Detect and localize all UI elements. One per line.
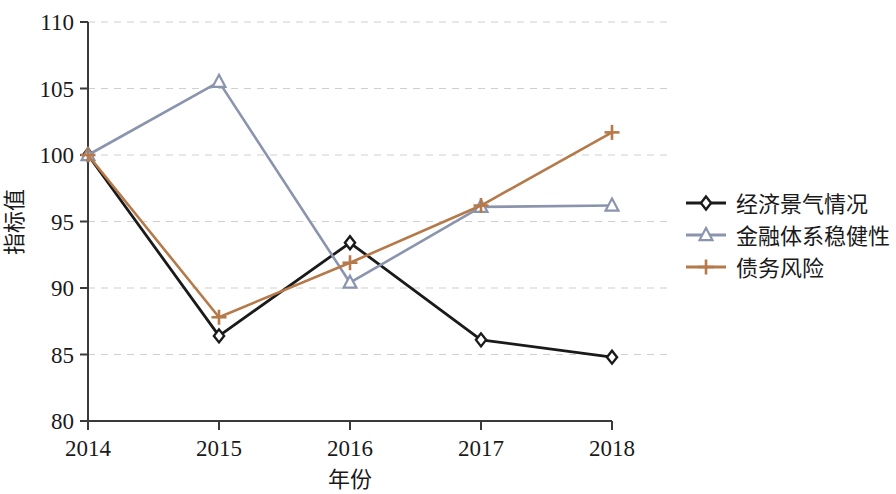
y-axis-tick-label: 110 [40, 10, 74, 35]
x-axis-tick-label: 2017 [458, 436, 504, 461]
x-axis-title: 年份 [328, 467, 372, 492]
legend-item-label: 金融体系稳健性 [736, 224, 890, 249]
x-axis-tick-label: 2014 [65, 436, 112, 461]
y-axis-tick-label: 80 [51, 409, 74, 434]
x-axis-tick-label: 2016 [327, 436, 373, 461]
x-axis-tick-label: 2015 [196, 436, 242, 461]
y-axis-tick-label: 85 [51, 343, 74, 368]
y-axis-tick-label: 105 [40, 77, 75, 102]
y-axis-title: 指标值 [2, 189, 27, 255]
y-axis-tick-label: 95 [51, 210, 74, 235]
y-axis-tick-label: 100 [40, 143, 75, 168]
legend-item-label: 经济景气情况 [736, 192, 868, 217]
y-axis-tick-label: 90 [51, 276, 74, 301]
line-chart-figure: 80859095100105110 20142015201620172018 年… [0, 0, 896, 494]
x-axis-tick-label: 2018 [589, 436, 635, 461]
chart-canvas: 80859095100105110 20142015201620172018 年… [0, 0, 896, 494]
legend-item-label: 债务风险 [736, 256, 824, 281]
